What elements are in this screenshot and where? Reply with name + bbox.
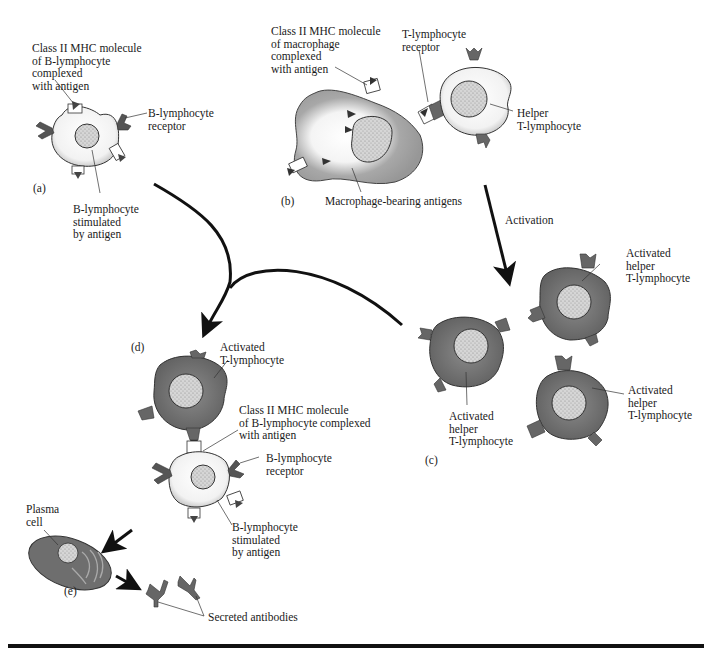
- b-lymphocyte-d: [152, 441, 244, 523]
- secreted-antibodies: [146, 576, 200, 607]
- label-a-stimulated: B-lymphocyte stimulated by antigen: [73, 203, 139, 241]
- label-d-stimulated: B-lymphocyte stimulated by antigen: [232, 521, 298, 559]
- activated-helper-t-left: [418, 317, 510, 392]
- panel-label-a: (a): [33, 182, 46, 194]
- arrow-d-to-e: [108, 530, 132, 548]
- label-b-helper: Helper T-lymphocyte: [517, 107, 581, 132]
- arrow-a-to-d: [154, 184, 230, 330]
- label-activation: Activation: [505, 214, 554, 227]
- label-c-top: Activated helper T-lymphocyte: [626, 247, 690, 285]
- arrow-c-to-d: [230, 270, 402, 325]
- helper-t-lymphocyte: [440, 48, 511, 148]
- activated-helper-t-top: [528, 254, 610, 346]
- panel-label-d: (d): [131, 341, 144, 353]
- panel-label-e: (e): [64, 585, 77, 597]
- panel-label-b: (b): [281, 195, 294, 207]
- label-c-right: Activated helper T-lymphocyte: [628, 384, 692, 422]
- macrophage: [287, 77, 446, 184]
- activated-helper-t-right: [527, 356, 608, 446]
- activated-t-lymphocyte-d: [138, 350, 227, 447]
- label-c-left: Activated helper T-lymphocyte: [449, 410, 513, 448]
- arrow-e-to-antibodies: [116, 576, 134, 586]
- bottom-rule: [8, 644, 704, 648]
- label-d-mhc: Class II MHC molecule of B-lymphocyte co…: [239, 404, 371, 442]
- immune-response-diagram: [0, 0, 711, 659]
- label-b-macrophage: Macrophage-bearing antigens: [325, 195, 462, 208]
- label-a-mhc: Class II MHC molecule of B-lymphocyte co…: [32, 42, 142, 92]
- label-a-receptor: B-lymphocyte receptor: [148, 107, 214, 132]
- panel-label-c: (c): [425, 454, 438, 466]
- label-e-antibodies: Secreted antibodies: [208, 611, 298, 624]
- activation-arrow: [485, 185, 508, 278]
- label-d-activated: Activated T-lymphocyte: [220, 341, 284, 366]
- label-e-plasma: Plasma cell: [26, 503, 59, 528]
- label-b-mhc: Class II MHC molecule of macrophage comp…: [271, 25, 381, 75]
- label-d-receptor: B-lymphocyte receptor: [266, 452, 332, 477]
- label-b-tcr: T-lymphocyte receptor: [402, 28, 466, 53]
- b-lymphocyte-a: [36, 101, 131, 179]
